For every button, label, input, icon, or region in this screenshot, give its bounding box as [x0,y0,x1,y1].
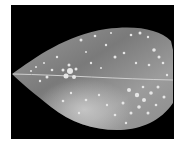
leaf-photo [11,5,174,139]
leaf-graphic [11,5,174,139]
